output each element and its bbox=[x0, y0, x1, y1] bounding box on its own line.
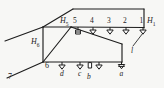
diagram-canvas bbox=[0, 0, 164, 88]
valve-marker-center bbox=[88, 63, 91, 68]
node-label-3: 3 bbox=[107, 17, 111, 25]
node-label-2: 2 bbox=[123, 17, 127, 25]
branch-label-a: a bbox=[120, 70, 124, 78]
lower-outlet-symbols bbox=[59, 62, 125, 69]
upper-main-pipe bbox=[71, 27, 144, 28]
outlet-symbol-5 bbox=[76, 27, 81, 34]
leader-line-l bbox=[133, 33, 143, 46]
label-h6: H6 bbox=[31, 38, 40, 48]
label-h1: H1 bbox=[147, 17, 156, 27]
branch-label-d: d bbox=[60, 70, 64, 78]
node-label-5: 5 bbox=[73, 17, 77, 25]
lower-deck-left-slant bbox=[43, 27, 71, 62]
branch-label-b: b bbox=[87, 73, 91, 81]
upper-outlet-symbols bbox=[76, 27, 147, 34]
label-h5: H5 bbox=[60, 17, 69, 27]
outlet-symbol-1 bbox=[140, 28, 146, 35]
node-label-1: 1 bbox=[140, 17, 144, 25]
outlet-symbol-3 bbox=[107, 27, 113, 34]
branch-label-c: c bbox=[78, 70, 81, 78]
segment-label-7: 7 bbox=[8, 73, 12, 81]
outlet-symbol-b bbox=[96, 62, 102, 69]
node-label-6: 6 bbox=[45, 62, 49, 70]
segment-label-l: l bbox=[131, 47, 133, 55]
node-label-4: 4 bbox=[90, 17, 94, 25]
outlet-symbol-a bbox=[118, 62, 124, 69]
lower-left-diagonal-7 bbox=[7, 62, 43, 78]
outlet-symbol-2 bbox=[123, 27, 129, 34]
isometric-piping-diagram: H5 H6 H1 5 4 3 2 1 6 d c b a 7 l bbox=[0, 0, 164, 88]
